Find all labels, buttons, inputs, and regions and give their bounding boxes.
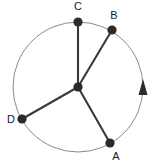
radius-to-a xyxy=(78,87,110,143)
point-label-b: B xyxy=(110,9,117,21)
geometry-figure: C B A D xyxy=(0,0,155,165)
point-label-d: D xyxy=(7,113,15,125)
point-d-dot xyxy=(17,114,26,123)
circle-diagram-canvas: C B A D xyxy=(0,0,155,165)
point-label-c: C xyxy=(74,0,82,12)
point-label-a: A xyxy=(112,150,120,162)
point-c-dot xyxy=(73,17,82,26)
counterclockwise-direction-arrow-icon xyxy=(139,79,148,95)
radius-to-b xyxy=(78,30,112,87)
point-a-dot xyxy=(105,138,114,147)
point-b-dot xyxy=(107,25,116,34)
radius-to-d xyxy=(22,87,78,119)
center-point-dot xyxy=(73,82,82,91)
